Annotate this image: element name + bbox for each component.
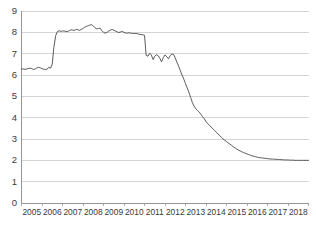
y-tick-label: 1: [12, 176, 17, 187]
x-tick-label: 2013: [186, 207, 205, 217]
x-tick-label: 2012: [166, 207, 185, 217]
x-tick-label: 2008: [84, 207, 103, 217]
y-tick-label: 5: [12, 90, 17, 101]
series-line: [22, 25, 309, 161]
y-tick-label: 6: [12, 69, 17, 80]
y-tick-label: 2: [12, 154, 17, 165]
x-tick-label: 2017: [268, 207, 287, 217]
y-tick-label: 9: [12, 5, 17, 16]
y-tick-label: 3: [12, 133, 17, 144]
x-tick-label: 2011: [146, 207, 164, 217]
chart-container: 9876543210 20052006200720082009201020112…: [0, 0, 316, 233]
x-tick-label: 2005: [22, 207, 41, 217]
y-tick-label: 8: [12, 26, 17, 37]
axis-group: [22, 11, 309, 203]
ytick-labels-group: 9876543210: [12, 5, 17, 208]
y-tick-label: 0: [12, 197, 17, 208]
x-tick-label: 2010: [125, 207, 144, 217]
x-tick-label: 2018: [289, 207, 308, 217]
x-tick-label: 2006: [43, 207, 62, 217]
x-tick-label: 2007: [63, 207, 82, 217]
y-tick-label: 7: [12, 48, 17, 59]
line-chart: 9876543210 20052006200720082009201020112…: [0, 0, 316, 233]
x-tick-label: 2014: [207, 207, 226, 217]
x-tick-label: 2009: [104, 207, 123, 217]
y-tick-label: 4: [12, 112, 17, 123]
x-tick-label: 2015: [227, 207, 246, 217]
xtick-labels-group: 2005200620072008200920102011201220132014…: [22, 207, 307, 217]
x-tick-label: 2016: [248, 207, 267, 217]
gridlines-group: [22, 11, 309, 182]
series-group: [22, 25, 309, 161]
